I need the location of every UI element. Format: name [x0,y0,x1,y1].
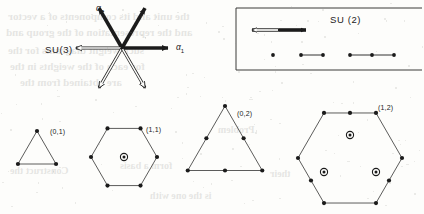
su3-group-label: SU(3) [45,44,73,55]
alpha-1-subscript: 1 [181,48,184,54]
weight-diagram-1-1-weight-dot [138,183,142,187]
degenerate-weight-lower-left-dot [323,171,326,174]
weight-diagram-1-2 [296,111,404,205]
weight-diagram-1-2-weight-dot [309,178,313,182]
weight-diagram-0-2-weight-dot [242,136,246,140]
weight-diagram-1-2-weight-dot [296,156,300,160]
weight-diagram-1-2-weight-dot [348,111,352,115]
weight-diagram-1-1 [89,126,159,187]
alpha-2-subscript: 2 [101,9,104,15]
weight-diagram-0-2 [186,104,265,173]
su2-weight-doublet-weight-dot [299,53,303,57]
su2-group-label: SU (2) [330,14,361,25]
root-up-right-positive-shaft [122,8,145,48]
root-alpha2-negative-shaft-inner [123,49,143,83]
su2-panel [236,8,422,70]
su2-weight-doublet-weight-dot [321,53,325,57]
su2-weight-triplet-weight-dot [348,53,352,57]
weight-diagram-1-2-weight-dot [322,111,326,115]
weight-diagram-1-2-weight-dot [322,201,326,205]
weight-diagram-1-2-label: (1,2) [378,104,393,111]
weight-diagram-1-2-weight-dot [374,201,378,205]
weight-diagram-0-2-label: (0,2) [237,110,252,117]
su2-panel-border [236,8,422,70]
weight-diagram-0-1-weight-dot [54,162,58,166]
weight-diagram-1-1-weight-dot [138,126,142,130]
su2-weight-doublet [299,53,325,57]
weight-diagram-0-1-weight-dot [16,162,20,166]
su3-root-diagram [76,8,168,88]
weight-diagram-0-2-weight-dot [204,136,208,140]
weight-diagram-1-1-weight-dot [105,126,109,130]
su2-weight-triplet-weight-dot [370,53,374,57]
weight-diagram-1-2-weight-dot [400,156,404,160]
su2-weight-triplet-weight-dot [392,53,396,57]
weight-diagram-1-2-weight-dot [387,178,391,182]
weight-diagram-1-2-outline [298,113,402,203]
weight-diagram-1-1-weight-dot [105,183,109,187]
su2-weight-triplet [348,53,396,57]
weight-diagram-0-1-weight-dot [35,129,39,133]
weight-diagram-1-2-weight-dot [374,111,378,115]
degenerate-weight-center-dot [123,156,126,159]
weight-diagram-0-2-weight-dot [186,168,190,172]
alpha-2-label: α2 [96,3,104,15]
weight-diagram-1-1-weight-dot [89,155,93,159]
su2-weight-singlet-weight-dot [271,53,275,57]
weight-diagram-0-1-outline [18,131,56,164]
weight-diagram-1-1-label: (1,1) [146,126,161,133]
weight-diagram-0-1-label: (0,1) [50,128,65,135]
su2-weight-singlet [271,53,275,57]
weight-diagram-0-2-weight-dot [223,168,227,172]
figure-canvas [0,0,424,214]
alpha-1-label: α1 [176,42,184,54]
root-down-left-negative-shaft-inner [102,49,122,83]
weight-diagram-1-1-weight-dot [155,155,159,159]
figure-page: the unit and its components of a vectora… [0,0,424,214]
weight-diagram-0-2-weight-dot [223,104,227,108]
degenerate-weight-upper-dot [349,134,352,137]
weight-diagram-0-2-weight-dot [260,168,264,172]
su3-weight-diagrams [16,104,404,205]
degenerate-weight-lower-right-dot [375,171,378,174]
